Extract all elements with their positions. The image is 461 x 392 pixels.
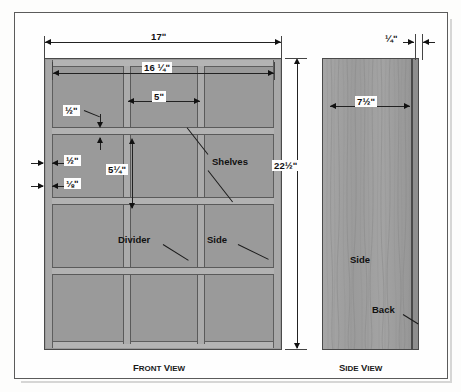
arrow-eighth-left bbox=[52, 183, 58, 189]
dim-depth: 7½ʺ bbox=[355, 96, 377, 107]
back-panel bbox=[412, 58, 419, 350]
divider-r1-a bbox=[123, 66, 131, 127]
dim-bay-width: 5ʺ bbox=[152, 91, 166, 102]
dim-bay-height: 5¼ʺ bbox=[106, 164, 128, 175]
front-view-title: FRONT VIEW bbox=[133, 357, 185, 375]
dim-line-22-5 bbox=[297, 60, 298, 348]
ext-line-quarter-a bbox=[415, 34, 416, 60]
callout-divider: Divider bbox=[118, 234, 150, 245]
side-view-title-rest2: IEW bbox=[367, 364, 382, 373]
arrow-half-upper-up bbox=[97, 137, 103, 143]
arrow-17-left bbox=[45, 39, 51, 45]
ext-line-right-17 bbox=[281, 36, 282, 60]
divider-r1-b bbox=[197, 66, 205, 127]
arrow-half-side-right bbox=[38, 160, 44, 166]
shelf-1 bbox=[52, 127, 274, 135]
arrow-16-left bbox=[53, 70, 59, 76]
arrow-5-left bbox=[128, 98, 134, 104]
ext-line-quarter-b bbox=[422, 34, 423, 60]
arrow-half-side-left bbox=[52, 160, 58, 166]
dim-line-5-25 bbox=[132, 140, 133, 208]
dim-shelf-thickness: ½ʺ bbox=[63, 105, 80, 116]
callout-side-front: Side bbox=[207, 234, 227, 245]
front-view-title-rest1: RONT bbox=[139, 364, 164, 373]
arrow-5-25-up bbox=[129, 138, 135, 144]
dim-overall-width: 17ʺ bbox=[149, 31, 168, 42]
callout-side-sideview: Side bbox=[350, 254, 370, 265]
dim-inner-width: 16 ¼ʺ bbox=[142, 62, 172, 73]
ext-line-right-16 bbox=[274, 62, 275, 80]
dim-line-17 bbox=[45, 42, 281, 43]
arrow-5-25-down bbox=[129, 203, 135, 209]
shelf-3 bbox=[52, 267, 274, 275]
front-view-title-rest2: IEW bbox=[170, 364, 185, 373]
dim-side-thickness: ½ʺ bbox=[64, 155, 81, 166]
arrow-quarter-left bbox=[423, 39, 429, 45]
dim-line-16-25 bbox=[53, 73, 274, 74]
ext-line-22-top bbox=[285, 58, 307, 59]
divider-r4-b bbox=[197, 275, 205, 344]
ext-line-left-16 bbox=[52, 62, 53, 80]
arrow-eighth-right bbox=[38, 183, 44, 189]
divider-r3-b bbox=[197, 205, 205, 267]
bottom-rail bbox=[46, 341, 280, 348]
side-view-title-rest1: IDE bbox=[345, 364, 361, 373]
right-side-panel bbox=[273, 60, 280, 348]
shelf-2 bbox=[52, 197, 274, 205]
callout-shelves: Shelves bbox=[212, 156, 248, 167]
technical-drawing-sheet: Shelves Divider Side 17ʺ 16 ¼ʺ 5ʺ ½ʺ ½ʺ … bbox=[0, 0, 461, 392]
dim-height: 22½ʺ bbox=[272, 160, 299, 171]
arrow-5-right bbox=[194, 98, 200, 104]
arrow-7-5-right bbox=[404, 103, 410, 109]
divider-r4-a bbox=[123, 275, 131, 344]
side-view-title: SIDE VIEW bbox=[339, 357, 382, 375]
dim-back-thickness-side: ¼ʺ bbox=[383, 33, 400, 44]
arrow-half-upper-down bbox=[97, 122, 103, 128]
arrow-quarter-right bbox=[408, 39, 414, 45]
arrow-17-right bbox=[275, 39, 281, 45]
arrow-7-5-left bbox=[330, 103, 336, 109]
dim-back-thickness-front: ⅛ʺ bbox=[64, 178, 81, 189]
ext-line-22-bot bbox=[285, 349, 307, 350]
callout-back: Back bbox=[372, 304, 395, 315]
